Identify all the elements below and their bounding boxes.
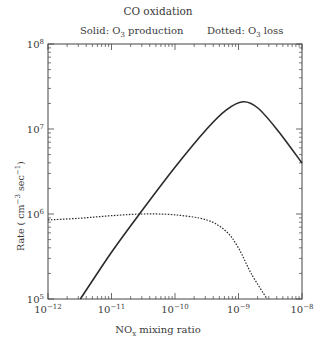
o3-production-line [80,102,302,299]
y-tick-label: 108 [27,38,44,50]
y-tick-label: 106 [27,208,45,220]
x-tick-label: 10−8 [290,303,313,315]
x-tick-label: 10−11 [98,303,126,315]
x-tick-label: 10−10 [161,303,189,315]
plot-area: 10−1210−1110−1010−910−8105106107108 [0,0,316,340]
x-tick-label: 10−9 [227,303,250,315]
y-tick-label: 107 [27,123,44,135]
o3-loss-line [48,214,267,299]
plot-frame [48,44,302,299]
